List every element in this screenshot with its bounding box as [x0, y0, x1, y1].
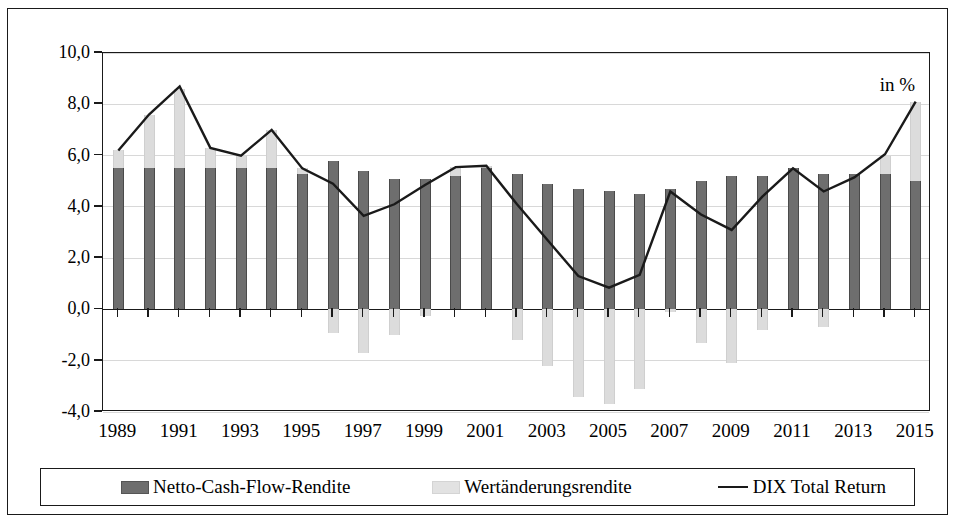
- units-annotation: in %: [880, 75, 915, 95]
- x-axis-tick-mark: [393, 308, 394, 317]
- x-axis-tick-mark: [730, 308, 731, 317]
- dark-square-icon: [121, 481, 149, 494]
- x-axis-tick-mark: [117, 308, 118, 317]
- legend-item-wertaenderungsrendite: Wertänderungsrendite: [432, 477, 631, 497]
- y-axis-tick-mark: [94, 359, 102, 361]
- x-axis-tick-label: 1997: [333, 421, 393, 441]
- x-axis-tick-mark: [485, 308, 486, 317]
- y-axis-tick-label: 4,0: [28, 197, 90, 215]
- x-axis-tick-mark: [209, 308, 210, 317]
- line-path: [118, 86, 915, 287]
- y-axis-tick-label: 0,0: [28, 299, 90, 317]
- legend-label-netto-cash-flow-rendite: Netto-Cash-Flow-Rendite: [153, 477, 350, 497]
- x-axis-tick-label: 2015: [885, 421, 945, 441]
- line-series-layer: [103, 53, 929, 410]
- x-axis-tick-mark: [883, 308, 884, 317]
- x-axis-tick-mark: [331, 308, 332, 317]
- x-axis-tick-mark: [607, 308, 608, 317]
- x-axis-tick-label: 1993: [210, 421, 270, 441]
- y-axis-tick-label: 6,0: [28, 146, 90, 164]
- y-axis-tick-mark: [94, 256, 102, 258]
- x-axis-tick-mark: [454, 308, 455, 317]
- x-axis-tick-mark: [822, 308, 823, 317]
- x-axis-tick-label: 1999: [394, 421, 454, 441]
- y-axis-tick-mark: [94, 308, 102, 310]
- light-square-icon: [432, 481, 460, 494]
- y-axis-tick-mark: [94, 205, 102, 207]
- x-axis-tick-mark: [791, 308, 792, 317]
- y-axis-tick-label: -2,0: [28, 351, 90, 369]
- x-axis-tick-mark: [270, 308, 271, 317]
- x-axis-tick-mark: [362, 308, 363, 317]
- chart-figure: 10,08,06,04,02,00,0-2,0-4,0 in % 1989199…: [0, 0, 955, 523]
- x-axis-tick-label: 2011: [762, 421, 822, 441]
- dix-total-return-line: [103, 53, 931, 412]
- x-axis-tick-mark: [853, 308, 854, 317]
- plot-area: in %: [102, 52, 930, 411]
- x-axis-tick-mark: [239, 308, 240, 317]
- x-axis-tick-mark: [546, 308, 547, 317]
- x-axis-tick-label: 2005: [578, 421, 638, 441]
- x-axis-tick-mark: [515, 308, 516, 317]
- x-axis-tick-mark: [699, 308, 700, 317]
- x-axis-tick-mark: [301, 308, 302, 317]
- y-axis-tick-mark: [94, 410, 102, 412]
- x-axis-tick-mark: [761, 308, 762, 317]
- line-marker-icon: [718, 486, 748, 488]
- x-axis-tick-label: 1989: [87, 421, 147, 441]
- y-axis-tick-label: 2,0: [28, 248, 90, 266]
- legend-label-dix-total-return: DIX Total Return: [753, 477, 886, 497]
- x-axis-tick-mark: [669, 308, 670, 317]
- x-axis-tick-mark: [638, 308, 639, 317]
- x-axis-tick-mark: [423, 308, 424, 317]
- x-axis-tick-mark: [577, 308, 578, 317]
- y-axis-tick-mark: [94, 51, 102, 53]
- x-axis-tick-label: 1995: [271, 421, 331, 441]
- chart-legend: Netto-Cash-Flow-Rendite Wertänderungsren…: [40, 468, 915, 506]
- x-axis-tick-mark: [178, 308, 179, 317]
- x-axis-tick-label: 2013: [823, 421, 883, 441]
- x-axis-tick-label: 1991: [149, 421, 209, 441]
- legend-label-wertaenderungsrendite: Wertänderungsrendite: [464, 477, 631, 497]
- y-axis-tick-label: 8,0: [28, 94, 90, 112]
- x-axis-tick-label: 2003: [517, 421, 577, 441]
- y-axis-tick-mark: [94, 154, 102, 156]
- y-axis-tick-label: -4,0: [28, 402, 90, 420]
- x-axis-tick-mark: [914, 308, 915, 317]
- legend-item-netto-cash-flow-rendite: Netto-Cash-Flow-Rendite: [121, 477, 350, 497]
- x-axis-tick-mark: [147, 308, 148, 317]
- x-axis-tick-label: 2001: [455, 421, 515, 441]
- legend-item-dix-total-return: DIX Total Return: [718, 477, 886, 497]
- y-axis-tick-label: 10,0: [28, 43, 90, 61]
- x-axis-tick-label: 2009: [701, 421, 761, 441]
- x-axis-tick-label: 2007: [639, 421, 699, 441]
- y-axis-tick-mark: [94, 102, 102, 104]
